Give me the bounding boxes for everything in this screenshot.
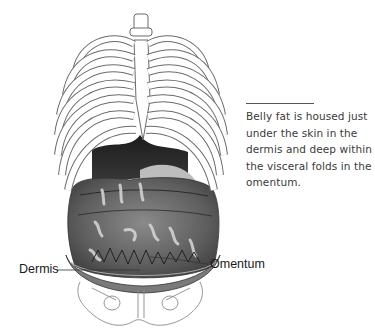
caption-rule (246, 103, 314, 104)
label-omentum: Omentum (210, 257, 265, 271)
label-dermis: Dermis (19, 262, 59, 276)
caption-text: Belly fat is housed just under the skin … (246, 108, 374, 191)
